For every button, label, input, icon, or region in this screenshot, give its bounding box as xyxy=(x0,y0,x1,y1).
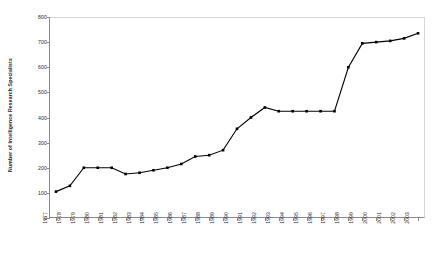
x-tick-label-text: 1993 xyxy=(265,212,271,242)
x-tick-label: 2003 xyxy=(403,222,432,232)
y-tick-mark xyxy=(47,118,50,119)
x-tick-label-text: 1987 xyxy=(181,212,187,242)
x-tick-label-text: 2001 xyxy=(376,212,382,242)
x-tick-label-text: 2003 xyxy=(404,212,410,242)
x-tick-label-text: 1978 xyxy=(56,212,62,242)
x-tick-label-text: 1979 xyxy=(70,212,76,242)
x-tick-label-text: 1997 xyxy=(320,212,326,242)
x-tick-mark xyxy=(418,218,419,221)
y-tick-mark xyxy=(47,168,50,169)
x-axis-tick-labels: 1977197819791980198119821983198419851986… xyxy=(0,0,432,260)
x-tick-label-text: 1983 xyxy=(126,212,132,242)
y-tick-mark xyxy=(47,67,50,68)
x-tick-label-text: 1988 xyxy=(195,212,201,242)
x-tick-label-text: 1996 xyxy=(307,212,313,242)
y-tick-mark xyxy=(47,218,50,219)
x-tick-label-text: 1985 xyxy=(153,212,159,242)
x-tick-label-text: 1998 xyxy=(334,212,340,242)
x-tick-label-text: 1999 xyxy=(348,212,354,242)
x-tick-label-text: 1991 xyxy=(237,212,243,242)
y-tick-mark xyxy=(47,92,50,93)
y-tick-mark xyxy=(47,143,50,144)
y-tick-mark xyxy=(47,42,50,43)
x-tick-label-text: 1982 xyxy=(112,212,118,242)
x-tick-label-text: 1981 xyxy=(98,212,104,242)
x-tick-label-text: 1992 xyxy=(251,212,257,242)
y-tick-mark xyxy=(47,17,50,18)
x-tick-label-text: 1980 xyxy=(84,212,90,242)
x-tick-label-text: 1994 xyxy=(279,212,285,242)
x-tick-label-text: 1995 xyxy=(293,212,299,242)
x-tick-label-text: 1989 xyxy=(209,212,215,242)
x-tick-label-text: 2000 xyxy=(362,212,368,242)
x-tick-label-text: 1977 xyxy=(42,212,48,242)
x-tick-label-text: 1984 xyxy=(139,212,145,242)
x-tick-label-text: 1990 xyxy=(223,212,229,242)
x-tick-label-text: 2002 xyxy=(390,212,396,242)
x-tick-label-text: 1986 xyxy=(167,212,173,242)
chart-screenshot: Number of Intelligence Research Speciali… xyxy=(0,0,432,260)
y-tick-mark xyxy=(47,193,50,194)
